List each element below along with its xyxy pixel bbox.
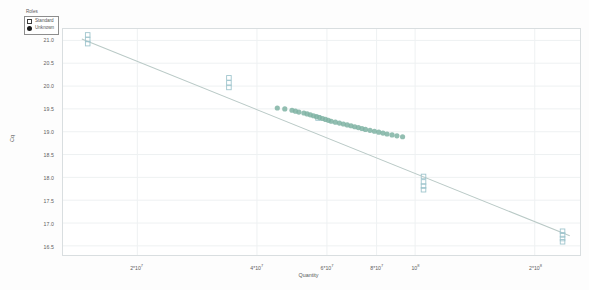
series-standard: [85, 33, 564, 244]
y-axis-tick-label: 17.5: [44, 198, 55, 204]
y-axis-tick-label: 21.0: [44, 37, 55, 43]
y-axis-tick-label: 16.5: [44, 244, 55, 250]
open-square-marker-icon: [27, 19, 32, 24]
data-point-unknown: [384, 131, 389, 136]
data-point-unknown: [363, 127, 368, 132]
x-tick-exponent: 7: [331, 263, 333, 268]
chart-legend[interactable]: Roles Standard Unknown: [24, 10, 59, 35]
y-axis-tick-label: 20.0: [44, 83, 55, 89]
data-point-unknown: [275, 105, 280, 110]
y-axis-tick-label: 19.0: [44, 129, 55, 135]
legend-item-unknown[interactable]: Unknown: [27, 25, 54, 32]
standard-curve-chart: Roles Standard Unknown 21.020.520.019.51…: [0, 0, 589, 290]
data-point-unknown: [400, 134, 405, 139]
data-point-unknown: [282, 106, 287, 111]
data-point-standard: [85, 33, 90, 38]
data-point-unknown: [394, 133, 399, 138]
series-unknown: [275, 105, 405, 139]
x-tick-exponent: 7: [381, 263, 383, 268]
data-point-unknown: [367, 128, 372, 133]
x-tick-mantissa: 2*10: [130, 265, 141, 271]
y-axis-tick-label: 18.5: [44, 152, 55, 158]
y-axis-tick-label: 18.0: [44, 175, 55, 181]
data-point-standard: [227, 76, 232, 81]
y-axis-title: Cq: [9, 135, 15, 142]
x-axis-tick-label: 108: [411, 263, 419, 271]
x-tick-mantissa: 6*10: [320, 265, 331, 271]
x-axis-tick-label: 6*107: [320, 263, 333, 271]
x-tick-exponent: 7: [261, 263, 263, 268]
y-axis-tick-label: 20.5: [44, 60, 55, 66]
legend-title: Roles: [26, 10, 59, 15]
data-point-standard: [227, 81, 232, 86]
y-axis-tick-label: 17.0: [44, 221, 55, 227]
data-point-unknown: [296, 110, 301, 115]
data-series-layer[interactable]: [63, 29, 580, 255]
filled-circle-marker-icon: [27, 26, 32, 31]
legend-item-label: Unknown: [35, 26, 54, 31]
x-tick-mantissa: 2*10: [529, 265, 540, 271]
x-tick-mantissa: 4*10: [250, 265, 261, 271]
x-axis-title: Quantity: [0, 272, 589, 278]
legend-box: Standard Unknown: [24, 16, 59, 35]
x-tick-exponent: 7: [141, 263, 143, 268]
x-axis-tick-label: 2*107: [130, 263, 143, 271]
legend-item-label: Standard: [35, 19, 54, 24]
data-point-unknown: [389, 132, 394, 137]
x-tick-exponent: 8: [417, 263, 419, 268]
legend-item-standard[interactable]: Standard: [27, 18, 54, 25]
regression-line: [82, 39, 570, 236]
x-tick-mantissa: 8*10: [370, 265, 381, 271]
plot-area[interactable]: [62, 28, 581, 256]
data-point-standard: [227, 85, 232, 90]
y-axis-tick-label: 19.5: [44, 106, 55, 112]
x-axis-tick-label: 2*108: [529, 263, 542, 271]
x-axis-tick-label: 8*107: [370, 263, 383, 271]
data-point-standard: [560, 239, 565, 244]
x-axis-tick-label: 4*107: [250, 263, 263, 271]
y-axis-tick-labels: 21.020.520.019.519.018.518.017.517.016.5: [0, 28, 58, 256]
data-point-unknown: [372, 129, 377, 134]
x-tick-exponent: 8: [540, 263, 542, 268]
